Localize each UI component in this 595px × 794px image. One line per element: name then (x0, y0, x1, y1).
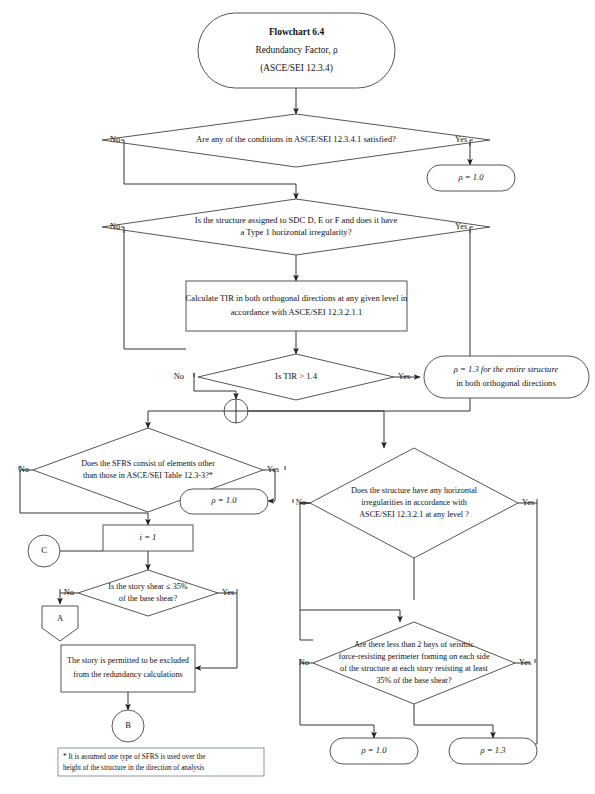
decision-d7-line-3: of the structure at each story resisting… (340, 664, 489, 673)
d6-yes-label: Yes (222, 588, 234, 597)
decision-story-shear-35-percent[interactable]: Is the story shear ≤ 35% of the base she… (78, 570, 218, 616)
d5-yes-label: Yes (522, 498, 534, 507)
title-line-3: (ASCE/SEI 12.3.4) (260, 63, 333, 74)
terminal-rho-1-0-middle: ρ = 1.0 (180, 489, 268, 514)
connector-c: C (28, 535, 60, 567)
title-line-1: Flowchart 6.4 (269, 27, 325, 37)
decision-d2-line-2: a Type 1 horizontal irregularity? (241, 227, 352, 237)
decision-d5-line-3: ASCE/SEI 12.3.2.1 at any level ? (359, 510, 469, 519)
process-p3-line-2: from the redundancy calculations (73, 670, 182, 679)
decision-horizontal-irregularities-any-level[interactable]: Does the structure have any horizontal i… (310, 448, 518, 558)
d2-yes-label: Yes (455, 222, 467, 231)
decision-d4-line-2: than those in ASCE/SEI Table 12.3-3?* (83, 471, 213, 480)
d6-no-label: No (64, 588, 74, 597)
terminal-r3-text: ρ = 1.0 (211, 495, 238, 505)
decision-d4-line-1: Does the SFRS consist of elements other (81, 459, 215, 468)
d3-yes-label: Yes (398, 372, 410, 381)
decision-d5-line-1: Does the structure have any horizontal (351, 486, 478, 495)
process-calculate-tir: Calculate TIR in both orthogonal directi… (186, 281, 408, 331)
d5-no-label: No (296, 498, 306, 507)
flowchart-canvas: Flowchart 6.4 Redundancy Factor, ρ (ASCE… (0, 0, 595, 794)
process-i-equals-1: i = 1 (103, 525, 193, 551)
terminal-rho-1-3-entire-structure: ρ = 1.3 for the entire structure in both… (424, 356, 589, 398)
decision-d7-line-1: Are there less than 2 bays of seismic (354, 640, 474, 649)
d7-yes-label: Yes (519, 658, 531, 667)
terminal-rho-1-0-bottom: ρ = 1.0 (330, 738, 418, 764)
d2-no-label: No (110, 222, 120, 231)
connector-c-label: C (41, 545, 47, 555)
decision-d7-line-2: force-resisting perimeter framing on eac… (338, 652, 490, 661)
decision-sdc-def-type1-irregularity[interactable]: Is the structure assigned to SDC D, E or… (102, 199, 490, 255)
connector-a: A (42, 606, 78, 641)
terminal-r4-text: ρ = 1.0 (361, 745, 388, 755)
terminal-r2-line-2: in both orthogonal directions (456, 378, 556, 388)
d1-yes-label: Yes (455, 135, 467, 144)
process-p1-line-1: Calculate TIR in both orthogonal directi… (186, 293, 408, 303)
terminal-rho-1-0-top: ρ = 1.0 (427, 165, 515, 191)
terminal-r1-text: ρ = 1.0 (458, 172, 485, 182)
title-terminal: Flowchart 6.4 Redundancy Factor, ρ (ASCE… (198, 13, 395, 88)
decision-less-than-2-bays-perimeter-framing[interactable]: Are there less than 2 bays of seismic fo… (313, 622, 515, 704)
connector-b: B (112, 710, 144, 742)
decision-d2-line-1: Is the structure assigned to SDC D, E or… (195, 215, 398, 225)
d4-no-label: No (19, 465, 29, 474)
title-line-2: Redundancy Factor, ρ (255, 45, 337, 55)
decision-d6-line-2: of the base shear? (119, 594, 178, 603)
footnote-line-1: * It is assumed one type of SFRS is used… (63, 753, 205, 761)
d4-yes-label: Yes (267, 465, 279, 474)
decision-asce-12341-satisfied[interactable]: Are any of the conditions in ASCE/SEI 12… (102, 114, 490, 167)
decision-d7-line-4: 35% of the base shear? (376, 676, 452, 685)
footnote-box: * It is assumed one type of SFRS is used… (58, 748, 264, 776)
decision-d6-line-1: Is the story shear ≤ 35% (108, 582, 187, 591)
decision-d5-line-2: irregularities in accordance with (361, 498, 467, 507)
connector-b-label: B (125, 720, 131, 730)
process-story-excluded: The story is permitted to be excluded fr… (61, 645, 195, 692)
connector-a-label: A (57, 613, 64, 623)
footnote-line-2: height of the structure in the direction… (63, 764, 205, 772)
d3-no-label: No (174, 372, 184, 381)
terminal-r2-line-1: ρ = 1.3 for the entire structure (453, 364, 559, 374)
process-p3-line-1: The story is permitted to be excluded (67, 656, 189, 665)
d1-no-label: No (110, 135, 120, 144)
decision-d3-line-1: Is TIR > 1.4 (275, 371, 318, 381)
terminal-rho-1-3-bottom: ρ = 1.3 (449, 738, 537, 764)
process-p2-text: i = 1 (140, 532, 157, 542)
process-p1-line-2: accordance with ASCE/SEI 12.3.2.1.1 (231, 307, 363, 317)
junction-crossed-circle (224, 399, 248, 423)
decision-is-tir-greater-1-4[interactable]: Is TIR > 1.4 (198, 354, 394, 400)
decision-d1-line-1: Are any of the conditions in ASCE/SEI 12… (196, 134, 396, 144)
terminal-r5-text: ρ = 1.3 (480, 745, 506, 755)
